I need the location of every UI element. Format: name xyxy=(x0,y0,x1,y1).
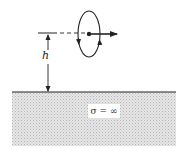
conductor-region xyxy=(12,92,176,146)
conductivity-label: σ = ∞ xyxy=(88,104,120,118)
diagram-canvas xyxy=(0,0,182,154)
height-label: h xyxy=(42,49,49,62)
diagram: h σ = ∞ xyxy=(0,0,182,154)
